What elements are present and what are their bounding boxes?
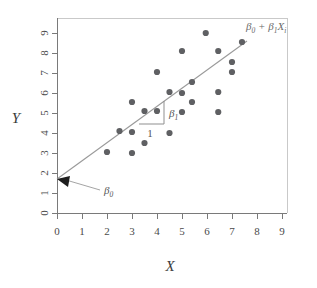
y-tick-label-5: 5 [38, 110, 50, 116]
data-point [141, 140, 147, 146]
data-point [129, 99, 135, 105]
y-tick-label-2: 2 [38, 170, 50, 176]
intercept-beta0-label: β0 [103, 184, 113, 199]
x-tick-label-5: 5 [179, 225, 185, 237]
data-point [116, 128, 122, 134]
x-tick-label-1: 1 [79, 225, 85, 237]
data-point [229, 59, 235, 65]
slope-run-label: 1 [147, 127, 153, 139]
y-tick-label-7: 7 [38, 70, 50, 76]
data-point [189, 99, 195, 105]
y-axis-title: Y [12, 110, 22, 126]
x-axis-tick-labels: 0 1 2 3 4 5 6 7 8 9 [54, 225, 285, 237]
data-point [154, 108, 160, 114]
x-tick-label-9: 9 [279, 225, 285, 237]
regression-scatter-figure: 0 1 2 3 4 5 6 7 8 9 0 1 2 [0, 0, 317, 288]
y-tick-label-0: 0 [38, 210, 50, 216]
y-tick-label-9: 9 [38, 30, 50, 36]
x-tick-label-2: 2 [104, 225, 110, 237]
data-point [104, 149, 110, 155]
x-axis-title: X [164, 258, 175, 274]
data-point [239, 39, 245, 45]
y-tick-label-4: 4 [38, 130, 50, 136]
intercept-leader-line [66, 180, 100, 190]
y-tick-label-1: 1 [38, 190, 50, 196]
intercept-arrow [57, 176, 100, 190]
data-point [189, 79, 195, 85]
y-tick-label-8: 8 [38, 50, 50, 56]
data-point [154, 69, 160, 75]
x-tick-label-3: 3 [129, 225, 135, 237]
data-point [203, 30, 209, 36]
data-point [129, 150, 135, 156]
scatter-plot-canvas: 0 1 2 3 4 5 6 7 8 9 0 1 2 [0, 0, 317, 288]
y-axis-ticks [52, 33, 57, 213]
x-tick-label-6: 6 [204, 225, 210, 237]
data-point [179, 48, 185, 54]
data-point [215, 48, 221, 54]
data-point [166, 130, 172, 136]
data-point [179, 109, 185, 115]
data-point [229, 69, 235, 75]
x-tick-label-8: 8 [254, 225, 260, 237]
slope-beta1-label: β1 [168, 107, 178, 122]
y-tick-label-6: 6 [38, 90, 50, 96]
y-tick-label-3: 3 [38, 150, 50, 156]
x-tick-label-4: 4 [154, 225, 160, 237]
x-axis-ticks [57, 213, 282, 219]
data-point [166, 89, 172, 95]
y-axis-tick-labels: 0 1 2 3 4 5 6 7 8 9 [38, 30, 50, 216]
data-point [179, 90, 185, 96]
x-tick-label-7: 7 [229, 225, 235, 237]
data-point [141, 108, 147, 114]
regression-equation-label: β0 + β1Xi [245, 20, 286, 35]
data-point [215, 89, 221, 95]
data-point [215, 109, 221, 115]
data-point [129, 129, 135, 135]
x-tick-label-0: 0 [54, 225, 60, 237]
